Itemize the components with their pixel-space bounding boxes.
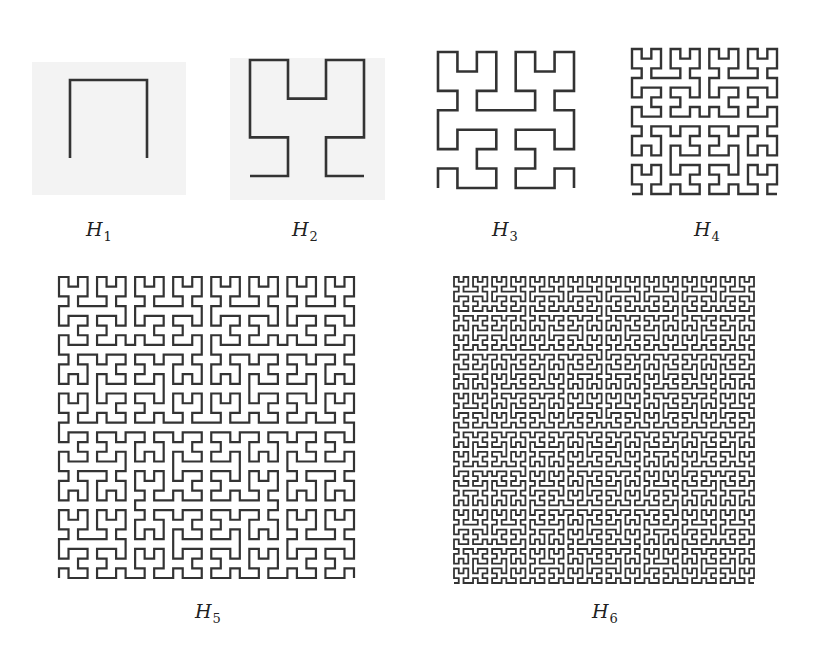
label-base: H: [195, 600, 212, 622]
label-subscript: 2: [310, 229, 318, 244]
label-subscript: 4: [712, 229, 720, 244]
label-h5: H5: [195, 602, 221, 621]
label-base: H: [694, 218, 711, 240]
label-h6: H6: [592, 602, 618, 621]
label-base: H: [292, 218, 309, 240]
label-base: H: [492, 218, 509, 240]
curves-canvas: [0, 0, 818, 665]
hilbert-curve-h3: [438, 52, 574, 188]
label-subscript: 3: [510, 229, 518, 244]
label-subscript: 6: [610, 611, 618, 626]
label-h3: H3: [492, 220, 518, 239]
hilbert-curve-h6: [454, 277, 754, 583]
hilbert-curve-h1: [70, 80, 147, 158]
hilbert-curve-h5: [59, 277, 354, 578]
label-subscript: 1: [104, 229, 112, 244]
label-base: H: [86, 218, 103, 240]
label-h1: H1: [86, 220, 112, 239]
label-subscript: 5: [213, 611, 221, 626]
hilbert-curve-h4: [632, 49, 777, 194]
label-base: H: [592, 600, 609, 622]
hilbert-curve-h2: [250, 60, 364, 176]
hilbert-curve-figure: H1 H2 H3 H4 H5 H6: [0, 0, 818, 665]
label-h4: H4: [694, 220, 720, 239]
label-h2: H2: [292, 220, 318, 239]
